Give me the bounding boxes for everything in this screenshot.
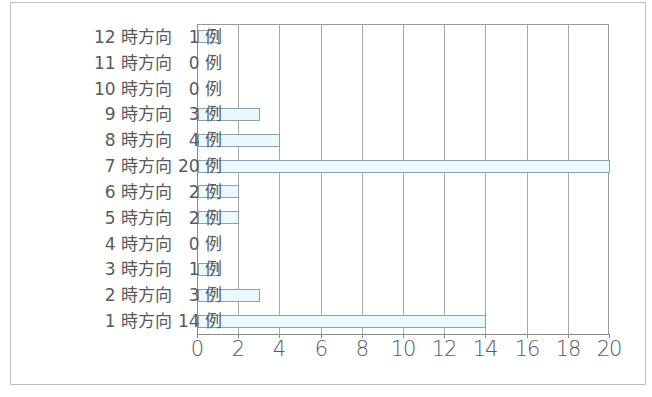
category-label: 8 時方向4 例 bbox=[22, 130, 222, 150]
direction-label: 10 時方向 bbox=[94, 79, 172, 99]
count-label: 3 例 bbox=[172, 104, 222, 124]
count-label: 0 例 bbox=[172, 53, 222, 73]
x-tick-label: 16 bbox=[507, 337, 547, 361]
category-label: 2 時方向3 例 bbox=[22, 285, 222, 305]
gridline bbox=[238, 24, 239, 334]
category-label: 9 時方向3 例 bbox=[22, 104, 222, 124]
category-label: 11 時方向0 例 bbox=[22, 53, 222, 73]
category-label: 12 時方向1 例 bbox=[22, 27, 222, 47]
x-tick-label: 4 bbox=[259, 337, 299, 361]
count-label: 4 例 bbox=[172, 130, 222, 150]
count-label: 1 例 bbox=[172, 259, 222, 279]
count-label: 0 例 bbox=[172, 234, 222, 254]
category-label: 7 時方向20 例 bbox=[22, 156, 222, 176]
x-tick-label: 8 bbox=[342, 337, 382, 361]
x-tick-label: 12 bbox=[424, 337, 464, 361]
category-label: 10 時方向0 例 bbox=[22, 79, 222, 99]
x-tick-label: 6 bbox=[301, 337, 341, 361]
gridline bbox=[527, 24, 528, 334]
count-label: 0 例 bbox=[172, 79, 222, 99]
category-label: 4 時方向0 例 bbox=[22, 234, 222, 254]
gridline bbox=[279, 24, 280, 334]
count-label: 14 例 bbox=[172, 311, 222, 331]
direction-label: 1 時方向 bbox=[105, 311, 172, 331]
count-label: 2 例 bbox=[172, 182, 222, 202]
direction-label: 7 時方向 bbox=[105, 156, 172, 176]
x-tick-label: 0 bbox=[177, 337, 217, 361]
direction-label: 12 時方向 bbox=[94, 27, 172, 47]
category-label: 1 時方向14 例 bbox=[22, 311, 222, 331]
gridline bbox=[362, 24, 363, 334]
count-label: 2 例 bbox=[172, 208, 222, 228]
count-label: 20 例 bbox=[172, 156, 222, 176]
category-label: 3 時方向1 例 bbox=[22, 259, 222, 279]
category-label: 6 時方向2 例 bbox=[22, 182, 222, 202]
bar bbox=[198, 315, 486, 328]
gridline bbox=[568, 24, 569, 334]
direction-label: 11 時方向 bbox=[94, 53, 172, 73]
direction-label: 5 時方向 bbox=[105, 208, 172, 228]
bar bbox=[198, 160, 610, 173]
gridline bbox=[485, 24, 486, 334]
x-tick-label: 10 bbox=[383, 337, 423, 361]
category-label: 5 時方向2 例 bbox=[22, 208, 222, 228]
direction-label: 4 時方向 bbox=[105, 234, 172, 254]
direction-label: 9 時方向 bbox=[105, 104, 172, 124]
count-label: 1 例 bbox=[172, 27, 222, 47]
gridline bbox=[321, 24, 322, 334]
gridline bbox=[403, 24, 404, 334]
x-tick-label: 18 bbox=[548, 337, 588, 361]
direction-label: 8 時方向 bbox=[105, 130, 172, 150]
x-tick-label: 14 bbox=[465, 337, 505, 361]
x-tick-label: 20 bbox=[589, 337, 629, 361]
count-label: 3 例 bbox=[172, 285, 222, 305]
direction-label: 3 時方向 bbox=[105, 259, 172, 279]
direction-label: 6 時方向 bbox=[105, 182, 172, 202]
x-tick-label: 2 bbox=[218, 337, 258, 361]
gridline bbox=[444, 24, 445, 334]
direction-label: 2 時方向 bbox=[105, 285, 172, 305]
x-axis-line bbox=[197, 334, 610, 335]
